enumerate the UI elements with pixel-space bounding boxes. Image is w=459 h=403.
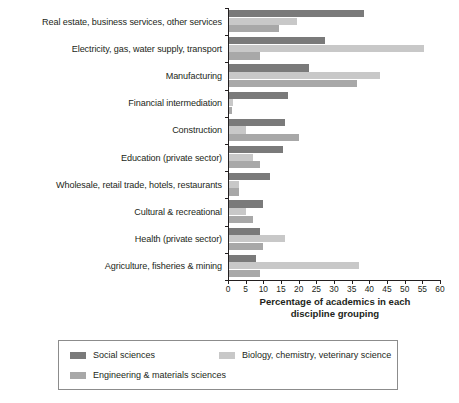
x-axis-tick-label: 0 — [219, 285, 237, 294]
x-axis-tick-label: 20 — [290, 285, 308, 294]
category-row: Agriculture, fisheries & mining — [0, 253, 459, 280]
bar — [228, 52, 260, 59]
y-axis-line — [228, 8, 229, 280]
legend-swatch-icon — [70, 372, 86, 379]
x-axis-title-line2: discipline grouping — [228, 308, 442, 320]
bar — [228, 146, 283, 153]
y-axis-tick — [225, 171, 228, 172]
category-rows: Real estate, business services, other se… — [0, 8, 459, 280]
category-row: Real estate, business services, other se… — [0, 8, 459, 35]
y-axis-tick — [225, 144, 228, 145]
bar — [228, 255, 256, 262]
bar-group — [228, 253, 453, 280]
category-row: Cultural & recreational — [0, 198, 459, 225]
bar-group — [228, 62, 453, 89]
bar — [228, 25, 279, 32]
bar — [228, 134, 299, 141]
x-axis-title-line1: Percentage of academics in each — [228, 296, 442, 308]
category-label: Health (private sector) — [0, 234, 228, 244]
bar — [228, 243, 263, 250]
legend-item-social-sciences: Social sciences — [70, 350, 155, 360]
bar — [228, 45, 424, 52]
bar — [228, 18, 297, 25]
bar — [228, 154, 253, 161]
bar — [228, 72, 380, 79]
bar — [228, 119, 285, 126]
legend-label: Engineering & materials sciences — [93, 370, 226, 380]
bar — [228, 188, 239, 195]
y-axis-tick — [225, 90, 228, 91]
x-axis-tick-label: 45 — [378, 285, 396, 294]
category-row: Electricity, gas, water supply, transpor… — [0, 35, 459, 62]
category-label: Real estate, business services, other se… — [0, 17, 228, 27]
y-axis-tick — [225, 35, 228, 36]
bar — [228, 173, 270, 180]
legend-swatch-icon — [70, 352, 86, 359]
y-axis-tick — [225, 226, 228, 227]
x-axis-tick-label: 10 — [254, 285, 272, 294]
category-row: Financial intermediation — [0, 90, 459, 117]
bar — [228, 235, 285, 242]
y-axis-tick — [225, 198, 228, 199]
category-label: Electricity, gas, water supply, transpor… — [0, 44, 228, 54]
legend-label: Social sciences — [93, 350, 155, 360]
legend-swatch-icon — [219, 352, 235, 359]
bar — [228, 126, 246, 133]
bar — [228, 80, 357, 87]
category-label: Wholesale, retail trade, hotels, restaur… — [0, 180, 228, 190]
category-label: Manufacturing — [0, 71, 228, 81]
x-axis-line: 051015202530354045505560 — [228, 280, 440, 281]
category-row: Wholesale, retail trade, hotels, restaur… — [0, 171, 459, 198]
bar-group — [228, 144, 453, 171]
category-label: Agriculture, fisheries & mining — [0, 261, 228, 271]
bar — [228, 10, 364, 17]
category-row: Health (private sector) — [0, 226, 459, 253]
category-row: Manufacturing — [0, 62, 459, 89]
bar-group — [228, 117, 453, 144]
bar — [228, 37, 325, 44]
bar — [228, 161, 260, 168]
bar-group — [228, 171, 453, 198]
x-axis-tick-label: 35 — [343, 285, 361, 294]
category-label: Financial intermediation — [0, 98, 228, 108]
plot-area: Real estate, business services, other se… — [0, 8, 459, 280]
x-axis-tick-label: 5 — [237, 285, 255, 294]
chart-legend: Social sciences Biology, chemistry, vete… — [58, 340, 398, 390]
bar-group — [228, 90, 453, 117]
bar — [228, 200, 263, 207]
bar-group — [228, 35, 453, 62]
y-axis-tick — [225, 62, 228, 63]
category-label: Cultural & recreational — [0, 207, 228, 217]
bar-group — [228, 198, 453, 225]
bar — [228, 216, 253, 223]
x-axis-tick-label: 30 — [325, 285, 343, 294]
category-label: Construction — [0, 125, 228, 135]
y-axis-tick — [225, 253, 228, 254]
bar — [228, 64, 309, 71]
x-axis-title: Percentage of academics in each discipli… — [228, 296, 442, 319]
category-row: Construction — [0, 117, 459, 144]
bar-group — [228, 8, 453, 35]
bar — [228, 262, 359, 269]
category-label: Education (private sector) — [0, 153, 228, 163]
legend-item-biology-chemistry-veterinary-science: Biology, chemistry, veterinary science — [219, 350, 391, 360]
bar-group — [228, 226, 453, 253]
legend-label: Biology, chemistry, veterinary science — [242, 350, 391, 360]
legend-item-engineering-materials-sciences: Engineering & materials sciences — [70, 370, 226, 380]
y-axis-tick — [225, 8, 228, 9]
x-axis-tick-label: 25 — [307, 285, 325, 294]
bar — [228, 92, 288, 99]
x-axis-tick-label: 60 — [431, 285, 449, 294]
x-axis-tick-label: 55 — [413, 285, 431, 294]
x-axis-tick-label: 15 — [272, 285, 290, 294]
bar — [228, 181, 239, 188]
y-axis-tick — [225, 117, 228, 118]
bar — [228, 228, 260, 235]
bar — [228, 208, 246, 215]
bar-chart-figure: Real estate, business services, other se… — [0, 0, 459, 403]
category-row: Education (private sector) — [0, 144, 459, 171]
x-axis-tick-label: 40 — [360, 285, 378, 294]
bar — [228, 270, 260, 277]
x-axis-tick-label: 50 — [396, 285, 414, 294]
